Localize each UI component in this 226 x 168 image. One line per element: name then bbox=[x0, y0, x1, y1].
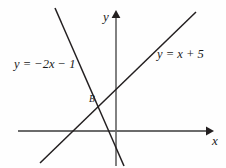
graph-canvas bbox=[0, 0, 226, 168]
x-axis-label: x bbox=[212, 134, 218, 147]
y-axis-label: y bbox=[103, 10, 109, 23]
line-y-equals-minus-2x-minus-1 bbox=[55, 8, 124, 166]
line-y-equals-x-plus-5 bbox=[40, 12, 196, 163]
equation-label-positive-slope-line: y = x + 5 bbox=[157, 48, 204, 61]
y-axis-arrowhead-icon bbox=[112, 10, 121, 18]
graph-figure: y = −2x − 1 y = x + 5 y x B bbox=[0, 0, 226, 168]
equation-label-negative-slope-line: y = −2x − 1 bbox=[14, 58, 75, 71]
intersection-point-label-b: B bbox=[89, 95, 95, 105]
